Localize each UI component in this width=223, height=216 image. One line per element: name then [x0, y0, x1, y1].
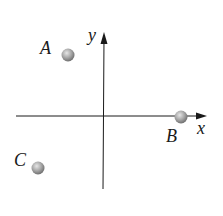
point-b-ball [175, 111, 188, 124]
axes-canvas [0, 0, 223, 216]
point-c-ball [32, 162, 45, 175]
point-c-label: C [14, 151, 26, 169]
y-axis-arrow-icon [101, 32, 108, 44]
y-axis [101, 32, 108, 189]
x-axis-label: x [197, 119, 205, 137]
point-a-label: A [40, 39, 51, 57]
point-b-label: B [166, 127, 177, 145]
point-a-ball [62, 49, 75, 62]
y-axis-label: y [88, 26, 96, 44]
